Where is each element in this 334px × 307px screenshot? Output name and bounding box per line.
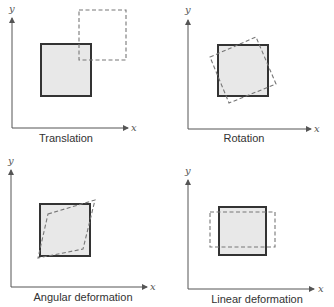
panel-linear-deformation: y x Linear deformation <box>184 165 324 305</box>
caption-rotation: Rotation <box>224 132 265 144</box>
y-axis-label: y <box>184 165 191 176</box>
y-axis-label: y <box>7 155 14 166</box>
caption-linear-deformation: Linear deformation <box>211 293 303 305</box>
y-axis-label: y <box>184 4 191 15</box>
original-element <box>218 45 268 96</box>
fluid-element-motion-diagram: y x Translation y x Rotation y x Angular… <box>0 0 334 307</box>
x-axis-label: x <box>150 281 156 292</box>
x-axis-label: x <box>314 123 320 134</box>
y-axis-label: y <box>8 3 15 14</box>
original-element <box>40 204 90 256</box>
original-element <box>41 44 91 96</box>
x-axis-label: x <box>318 283 324 294</box>
panel-angular-deformation: y x Angular deformation <box>7 155 156 303</box>
original-element <box>219 207 266 255</box>
caption-translation: Translation <box>39 132 93 144</box>
panel-translation: y x Translation <box>8 3 137 144</box>
x-axis-label: x <box>131 122 137 133</box>
panel-rotation: y x Rotation <box>184 4 320 144</box>
caption-angular-deformation: Angular deformation <box>33 291 132 303</box>
